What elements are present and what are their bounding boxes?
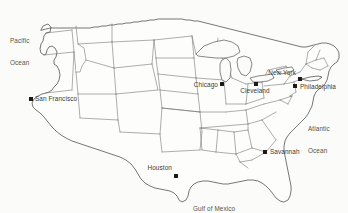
- city-label-new-york: New York: [268, 69, 296, 76]
- city-label-houston: Houston: [147, 164, 172, 171]
- city-marker-philadelphia[interactable]: [293, 84, 297, 88]
- city-marker-savannah[interactable]: [263, 150, 267, 154]
- city-marker-new-york[interactable]: [298, 77, 302, 81]
- water-label-gulf-of-mexico: Gulf of Mexico: [193, 190, 235, 213]
- water-label-pacific-line2: Ocean: [10, 59, 30, 66]
- city-label-chicago: Chicago: [194, 81, 218, 88]
- city-marker-cleveland[interactable]: [254, 82, 258, 86]
- city-label-cleveland: Cleveland: [240, 87, 269, 94]
- water-label-gulf-line1: Gulf of Mexico: [193, 205, 235, 212]
- city-marker-chicago[interactable]: [220, 82, 224, 86]
- city-label-savannah: Savannah: [270, 148, 300, 155]
- city-label-san-francisco: San Francisco: [35, 95, 77, 102]
- water-label-atlantic-line2: Ocean: [308, 147, 330, 154]
- lake-michigan: [220, 58, 231, 82]
- water-label-atlantic-ocean: Atlantic Ocean: [308, 110, 330, 169]
- map-geometry: [0, 0, 348, 213]
- city-marker-san-francisco[interactable]: [29, 97, 33, 101]
- us-outline-map: San Francisco Chicago Cleveland New York…: [0, 0, 348, 213]
- water-label-pacific-ocean: Pacific Ocean: [10, 22, 30, 81]
- city-marker-houston[interactable]: [174, 174, 178, 178]
- water-label-atlantic-line1: Atlantic: [308, 125, 330, 132]
- city-label-philadelphia: Philadelphia: [300, 83, 336, 90]
- water-label-pacific-line1: Pacific: [10, 37, 30, 44]
